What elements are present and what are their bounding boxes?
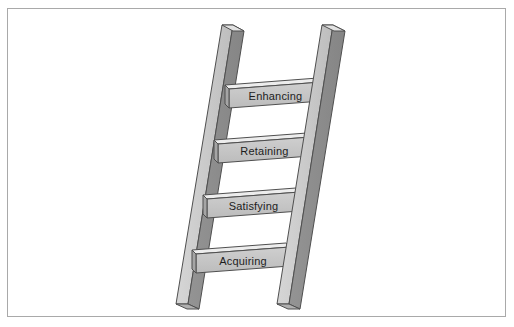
rung-acquiring-left-end [192,250,196,273]
right-rail [277,25,345,309]
ladder-illustration [0,0,514,327]
rung-satisfying-left-end [203,195,207,218]
rung-enhancing-left-end [225,85,229,108]
rung-retaining-left-end [214,140,218,163]
rung-retaining [214,133,311,163]
rung-enhancing [225,78,322,108]
figure-canvas: Enhancing Retaining Satisfying Acquiring [0,0,514,327]
